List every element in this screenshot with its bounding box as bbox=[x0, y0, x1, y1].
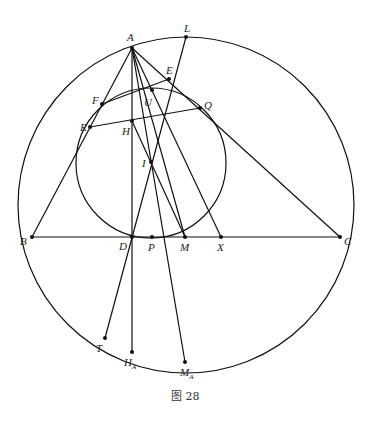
label-f: F bbox=[91, 94, 99, 106]
label-c: C bbox=[344, 235, 352, 247]
label-ha: HA bbox=[123, 356, 137, 371]
side-ab bbox=[32, 48, 132, 237]
label-i: I bbox=[141, 157, 147, 169]
side-ac bbox=[132, 48, 340, 237]
label-u: U bbox=[144, 96, 153, 108]
label-m: M bbox=[179, 241, 190, 253]
figure-caption: 图 28 bbox=[171, 390, 200, 403]
geometry-figure: A L E F U Q R H I B D P M X C T HA MA 图 … bbox=[0, 0, 368, 421]
line-a-ma bbox=[132, 48, 185, 362]
label-t: T bbox=[96, 342, 103, 354]
label-p: P bbox=[147, 241, 155, 253]
label-h: H bbox=[121, 125, 131, 137]
line-f-e bbox=[102, 79, 169, 104]
label-l: L bbox=[183, 22, 190, 34]
circumcircle bbox=[18, 37, 354, 373]
label-a: A bbox=[126, 31, 134, 43]
points bbox=[30, 35, 342, 364]
label-ma: MA bbox=[179, 366, 194, 381]
label-x: X bbox=[216, 241, 225, 253]
label-d: D bbox=[118, 240, 127, 252]
label-r: R bbox=[79, 121, 87, 133]
label-q: Q bbox=[204, 99, 212, 111]
label-e: E bbox=[165, 64, 173, 76]
label-b: B bbox=[20, 235, 27, 247]
